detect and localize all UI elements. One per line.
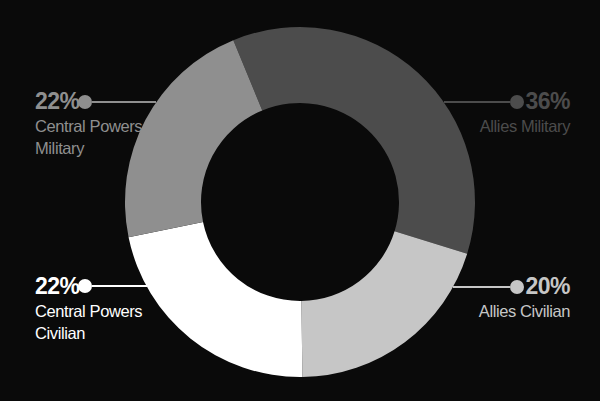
callout-central-powers-military: 22% Central Powers Military (35, 87, 142, 159)
callout-label-line: Central Powers (35, 300, 142, 322)
callout-value: 36% (480, 87, 570, 115)
donut-segment-allies-civilian (301, 231, 467, 377)
callout-label-line: Allies Civilian (479, 300, 570, 322)
callout-allies-civilian: 20% Allies Civilian (479, 272, 570, 322)
callout-label-line: Military (35, 137, 142, 159)
callout-allies-military: 36% Allies Military (480, 87, 570, 137)
infographic-canvas: 22% Central Powers Military 36% Allies M… (0, 0, 600, 401)
callout-label-line: Civilian (35, 322, 142, 344)
callout-value: 20% (479, 272, 570, 300)
callout-central-powers-civilian: 22% Central Powers Civilian (35, 272, 142, 344)
callout-value: 22% (35, 87, 142, 115)
donut-segment-allies-military (233, 27, 475, 254)
callout-label-line: Allies Military (480, 115, 570, 137)
callout-value: 22% (35, 272, 142, 300)
callout-label-line: Central Powers (35, 115, 142, 137)
donut-segment-central-powers-civilian (129, 222, 303, 377)
donut-segment-central-powers-military (125, 40, 262, 237)
